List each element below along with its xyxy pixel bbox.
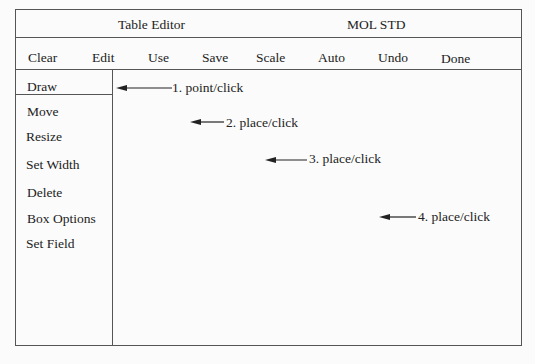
arrow-left-icon	[116, 83, 172, 93]
menu-use[interactable]: Use	[148, 51, 169, 65]
menu-save[interactable]: Save	[202, 51, 228, 65]
mode-label: MOL STD	[347, 18, 405, 32]
annotation-1: 1. point/click	[172, 81, 243, 95]
annotation-4: 4. place/click	[418, 210, 490, 224]
sidebar-item-move[interactable]: Move	[27, 105, 59, 119]
sidebar-item-set-width[interactable]: Set Width	[26, 158, 80, 172]
menu-clear[interactable]: Clear	[28, 51, 57, 65]
header-divider	[15, 37, 522, 38]
menu-undo[interactable]: Undo	[378, 51, 408, 65]
menu-scale[interactable]: Scale	[256, 51, 285, 65]
sidebar-item-set-field[interactable]: Set Field	[26, 237, 74, 251]
arrow-left-icon	[190, 117, 224, 127]
arrow-left-icon	[379, 212, 416, 222]
menu-auto[interactable]: Auto	[318, 51, 345, 65]
arrow-left-icon	[265, 155, 307, 165]
sidebar-item-draw[interactable]: Draw	[27, 80, 57, 94]
draw-item-divider	[15, 94, 113, 95]
sidebar-item-box-options[interactable]: Box Options	[27, 212, 96, 226]
window-title: Table Editor	[118, 18, 185, 32]
sidebar-item-delete[interactable]: Delete	[27, 186, 62, 200]
annotation-2: 2. place/click	[226, 116, 298, 130]
annotation-3: 3. place/click	[309, 152, 381, 166]
sidebar-divider	[112, 69, 113, 346]
menu-done[interactable]: Done	[441, 52, 470, 66]
sidebar-item-resize[interactable]: Resize	[26, 130, 62, 144]
menubar-divider	[15, 69, 522, 70]
menu-edit[interactable]: Edit	[92, 51, 115, 65]
